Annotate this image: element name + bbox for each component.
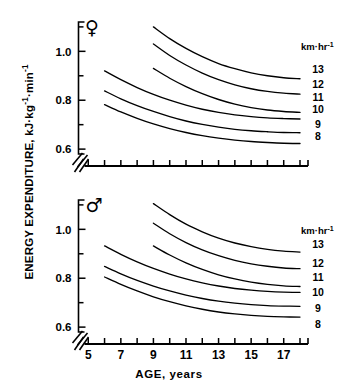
y-tick-label-male-1.0: 1.0 [56, 224, 72, 236]
x-axis-title: AGE, years [0, 368, 338, 380]
y-axis-unit-kg: kg [23, 105, 35, 119]
chart-canvas: 0.60.81.0♀km·hr-113121110980.60.81.05791… [0, 0, 338, 390]
legend-entry-female-10: 10 [312, 103, 324, 115]
female-symbol: ♀ [85, 16, 99, 38]
legend-entry-male-10: 10 [312, 286, 324, 298]
legend-entry-male-9: 9 [315, 302, 321, 314]
x-tick-label-7: 7 [118, 348, 125, 362]
panel-male: 0.60.81.057911131517♂km·hr-11312111098 [56, 194, 334, 362]
curve-male-11-kmhr [153, 246, 300, 287]
curve-male-9-kmhr [105, 266, 300, 306]
x-tick-label-5: 5 [85, 348, 92, 362]
male-symbol: ♂ [85, 194, 102, 216]
x-tick-label-15: 15 [244, 348, 258, 362]
curve-female-10-kmhr [105, 71, 300, 119]
y-axis-title: ENERGY EXPENDITURE, kJ·kg-1·min-1 [21, 52, 35, 292]
legend-title-female: km·hr-1 [301, 41, 334, 53]
y-axis-unit-min-exponent: -1 [21, 64, 30, 72]
curve-female-12-kmhr [153, 44, 300, 94]
legend-entry-female-9: 9 [315, 118, 321, 130]
y-axis-title-main: ENERGY EXPENDITURE, kJ [23, 123, 35, 280]
legend-entry-female-13: 13 [312, 63, 324, 75]
legend-entry-male-8: 8 [315, 318, 321, 330]
y-tick-label-female-0.8: 0.8 [56, 94, 73, 106]
legend-entry-female-12: 12 [312, 78, 324, 90]
y-tick-label-male-0.8: 0.8 [56, 272, 73, 284]
curve-female-13-kmhr [153, 27, 300, 79]
figure: 0.60.81.0♀km·hr-113121110980.60.81.05791… [0, 0, 338, 390]
x-tick-label-17: 17 [277, 348, 291, 362]
curve-female-9-kmhr [105, 91, 300, 133]
panel-female: 0.60.81.0♀km·hr-11312111098 [56, 16, 334, 172]
curve-male-13-kmhr [153, 204, 300, 252]
y-axis-line-male [79, 200, 85, 332]
x-tick-label-13: 13 [212, 348, 226, 362]
y-axis-unit-kg-exponent: -1 [21, 97, 30, 105]
y-axis-unit-min: min [23, 72, 35, 93]
curve-male-12-kmhr [153, 223, 300, 268]
y-tick-label-female-0.6: 0.6 [56, 143, 72, 155]
legend-entry-female-8: 8 [315, 130, 321, 142]
legend-entry-male-11: 11 [312, 271, 323, 283]
y-tick-label-male-0.6: 0.6 [56, 321, 72, 333]
legend-title-male: km·hr-1 [301, 225, 334, 237]
curve-female-11-kmhr [153, 68, 300, 112]
y-axis-line-female [79, 22, 85, 154]
legend-entry-male-13: 13 [312, 238, 324, 250]
legend-entry-female-11: 11 [312, 91, 323, 103]
y-tick-label-female-1.0: 1.0 [56, 46, 72, 58]
x-tick-label-9: 9 [150, 348, 157, 362]
legend-entry-male-12: 12 [312, 257, 324, 269]
x-tick-label-11: 11 [180, 348, 193, 362]
